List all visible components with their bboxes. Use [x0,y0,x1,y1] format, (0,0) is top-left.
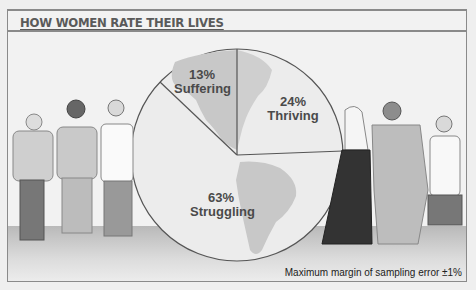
struggling-percent: 63% [190,191,252,205]
woman-figure-5 [372,102,428,244]
woman-figure-6 [428,116,462,225]
struggling-name: Struggling [190,205,252,219]
slice-label-struggling: 63% Struggling [190,191,252,219]
woman-figure-1 [13,114,53,240]
suffering-name: Suffering [174,82,230,96]
sampling-error-note: Maximum margin of sampling error ±1% [285,267,462,278]
slice-label-thriving: 24% Thriving [262,95,324,123]
slice-label-suffering: 13% Suffering [174,68,230,96]
woman-figure-2 [57,100,97,233]
thriving-name: Thriving [262,109,324,123]
suffering-percent: 13% [174,68,230,82]
thriving-percent: 24% [262,95,324,109]
illustration [0,0,476,290]
woman-figure-3 [101,100,133,236]
